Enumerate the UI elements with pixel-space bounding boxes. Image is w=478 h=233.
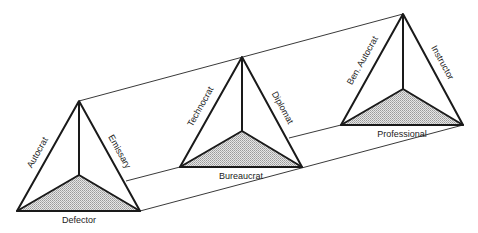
pyramid-middle-base-label: Bureaucrat bbox=[219, 171, 264, 181]
middle-right-connector-line bbox=[289, 125, 341, 138]
pyramid-left: Autocrat Emissary Defector bbox=[17, 101, 140, 225]
pyramid-right-base-label: Professional bbox=[377, 129, 427, 139]
pyramid-middle: Technocrat Diplomat Bureaucrat bbox=[180, 57, 302, 181]
pyramid-middle-right-label: Diplomat bbox=[270, 90, 296, 126]
pyramid-middle-left-label: Technocrat bbox=[185, 84, 216, 128]
pyramid-left-base-label: Defector bbox=[62, 215, 96, 225]
pyramid-left-left-label: Autocrat bbox=[25, 135, 50, 170]
pyramid-left-right-label: Emissary bbox=[106, 133, 133, 171]
left-middle-connector-line bbox=[126, 167, 180, 181]
pyramid-right-base-face bbox=[341, 89, 463, 125]
pyramid-left-base-face bbox=[17, 175, 140, 211]
pyramid-right-right-label: Instructor bbox=[429, 44, 456, 82]
pyramid-right-left-label: Ben. Autocrat bbox=[345, 34, 380, 86]
pyramid-diagram: Autocrat Emissary Defector Technocrat Di… bbox=[0, 0, 478, 233]
pyramid-right: Ben. Autocrat Instructor Professional bbox=[341, 14, 463, 139]
